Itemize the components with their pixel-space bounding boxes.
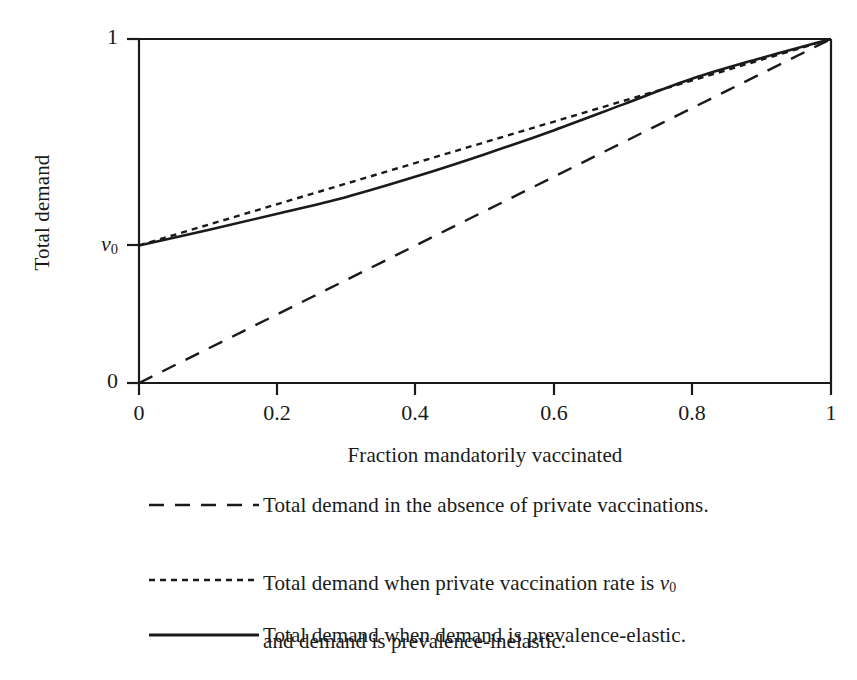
legend-v-zero-subscript: 0 <box>669 580 676 595</box>
curve-inelastic-dotted <box>139 39 831 245</box>
x-tick-label-0p2: 0.2 <box>247 400 307 426</box>
legend-label-elastic: Total demand when demand is prevalence-e… <box>263 622 686 649</box>
x-tick-marks <box>139 383 831 395</box>
y-tick-label-1: 1 <box>50 24 118 50</box>
legend-sample-solid <box>145 622 263 648</box>
legend-sample-dashed <box>145 492 263 518</box>
x-tick-label-0: 0 <box>109 400 169 426</box>
data-curves <box>139 39 831 383</box>
v-zero-symbol: v <box>101 231 111 256</box>
curve-absence-dashed <box>139 39 831 383</box>
x-tick-label-1: 1 <box>801 400 857 426</box>
legend-label-inelastic-line1-pre: Total demand when private vaccination ra… <box>263 571 660 595</box>
x-tick-label-0p6: 0.6 <box>524 400 584 426</box>
legend-entry-elastic: Total demand when demand is prevalence-e… <box>145 622 686 649</box>
y-tick-marks <box>127 39 139 383</box>
y-tick-label-v0: v0 <box>50 231 118 258</box>
x-tick-label-0p4: 0.4 <box>385 400 445 426</box>
x-axis-title: Fraction mandatorily vaccinated <box>235 443 735 468</box>
y-axis-title: Total demand <box>30 133 55 293</box>
legend-v-zero-symbol: v <box>660 571 669 595</box>
chart-figure: Total demand 1 v0 0 0 0.2 0.4 0.6 0.8 1 … <box>0 0 857 680</box>
legend-entry-absence: Total demand in the absence of private v… <box>145 492 709 519</box>
y-tick-label-0: 0 <box>50 368 118 394</box>
legend-sample-dotted <box>145 567 263 593</box>
legend-label-absence: Total demand in the absence of private v… <box>263 492 709 519</box>
curve-elastic-solid <box>139 39 831 245</box>
x-tick-label-0p8: 0.8 <box>662 400 722 426</box>
v-zero-subscript: 0 <box>111 241 118 257</box>
